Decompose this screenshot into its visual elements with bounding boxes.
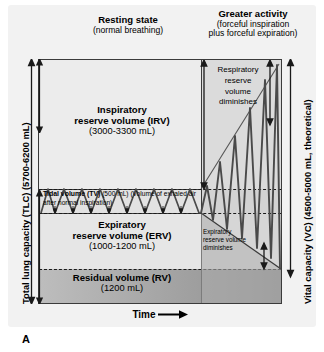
figure-root: Resting state (normal breathing) Greater… xyxy=(0,0,324,352)
annotation-resp-line4: diminishes xyxy=(205,97,271,108)
label-residual-volume: Residual volume (RV) (1200 mL) xyxy=(43,272,201,294)
annotation-resp-line1: Respiratory xyxy=(205,65,271,76)
label-expiratory-reserve-volume: Expiratory reserve volume (ERV) (1000-12… xyxy=(43,219,201,252)
axis-title-vital-capacity: Vital capacity (VC) (4500-5000 mL, theor… xyxy=(302,99,313,304)
heading-resting-sub: (normal breathing) xyxy=(58,26,198,36)
label-erv-line1: Expiratory xyxy=(43,219,201,230)
annotation-resp-line3: volume xyxy=(205,87,271,98)
x-axis-time: Time xyxy=(38,309,282,321)
annotation-resp-line2: reserve xyxy=(205,76,271,87)
bracket-inspiratory-reserve-volume xyxy=(34,59,45,133)
label-tv-name: Tidal volume (TV) xyxy=(43,190,100,197)
label-erv-value: (1000-1200 mL) xyxy=(89,241,155,251)
label-tv-value: (500 mL) xyxy=(102,190,128,197)
label-tidal-volume: Tidal volume (TV) (500 mL) (Volume of ex… xyxy=(43,190,203,207)
heading-greater-activity: Greater activity (forceful inspiration p… xyxy=(186,9,320,39)
heading-greater-sub-line2: plus forceful expiration) xyxy=(186,29,320,39)
annotation-exp-line3: diminishes xyxy=(203,244,261,252)
bracket-vital-capacity xyxy=(285,59,296,304)
annotation-exp-line2: reserve volume xyxy=(203,236,261,244)
heading-resting-state: Resting state (normal breathing) xyxy=(58,15,198,35)
arrow-right-icon xyxy=(158,310,188,321)
label-rv-name: Residual volume (RV) xyxy=(43,272,201,283)
label-erv-line2: reserve volume (ERV) xyxy=(43,230,201,241)
annotation-expiratory-reserve-diminishes: Expiratory reserve volume diminishes xyxy=(203,228,261,253)
annotation-respiratory-reserve-diminishes: Respiratory reserve volume diminishes xyxy=(205,65,271,108)
label-rv-value: (1200 mL) xyxy=(101,283,143,293)
arrow-right-glyph xyxy=(158,310,188,319)
x-axis-label: Time xyxy=(132,309,155,320)
spirogram-plot: Inspiratory reserve volume (IRV) (3000-3… xyxy=(38,59,282,304)
label-irv-value: (3000-3300 mL) xyxy=(89,126,155,136)
annotation-exp-line1: Expiratory xyxy=(203,228,261,236)
label-inspiratory-reserve-volume: Inspiratory reserve volume (IRV) (3000-3… xyxy=(47,104,197,137)
label-irv-line2: reserve volume (IRV) xyxy=(47,115,197,126)
label-irv-line1: Inspiratory xyxy=(47,104,197,115)
bracket-erv-and-rv xyxy=(34,190,45,304)
figure-letter: A xyxy=(22,333,30,345)
